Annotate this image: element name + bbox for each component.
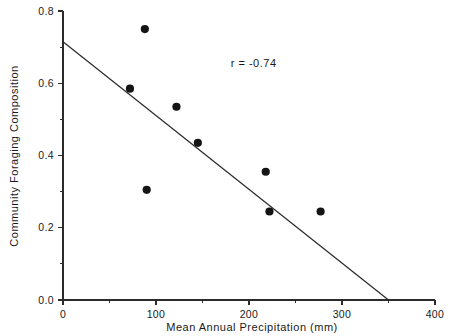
y-tick-label: 0.6 [38, 77, 54, 89]
data-point [262, 168, 270, 176]
scatter-plot-svg: 0.00.20.40.60.8 0100200300400 r = -0.74 … [0, 0, 452, 336]
x-tick-label: 400 [426, 308, 445, 320]
x-tick-label: 100 [147, 308, 166, 320]
y-axis-title: Community Foraging Composition [8, 65, 20, 246]
y-tick-label: 0.0 [38, 294, 54, 306]
correlation-annotation: r = -0.74 [231, 57, 277, 69]
x-tick-label: 300 [333, 308, 352, 320]
data-point [317, 207, 325, 215]
x-tick-label: 0 [60, 308, 66, 320]
data-point [265, 207, 273, 215]
y-tick-label: 0.4 [38, 149, 54, 161]
y-axis-tick-labels: 0.00.20.40.60.8 [38, 5, 54, 306]
x-axis-ticks [63, 300, 435, 305]
data-point [126, 85, 134, 93]
regression-trendline [63, 42, 389, 300]
chart-figure: 0.00.20.40.60.8 0100200300400 r = -0.74 … [0, 0, 452, 336]
data-point [143, 186, 151, 194]
data-points-group [126, 25, 325, 216]
data-point [141, 25, 149, 33]
y-tick-label: 0.2 [38, 221, 54, 233]
x-axis-tick-labels: 0100200300400 [60, 308, 444, 320]
data-point [194, 139, 202, 147]
correlation-annotation-group: r = -0.74 [231, 57, 277, 69]
y-tick-label: 0.8 [38, 5, 54, 17]
trendline-group [63, 42, 389, 300]
axes-group [63, 11, 435, 300]
data-point [172, 103, 180, 111]
x-tick-label: 200 [240, 308, 259, 320]
y-axis-ticks [58, 11, 63, 300]
x-axis-title: Mean Annual Precipitation (mm) [166, 321, 338, 333]
